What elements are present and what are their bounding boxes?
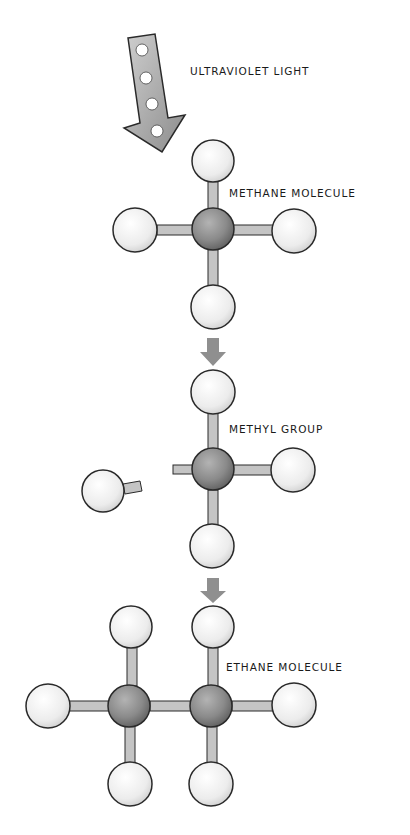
detached-hydrogen-atom bbox=[82, 470, 142, 512]
hydrogen-atom bbox=[271, 448, 315, 492]
down-arrow-icon bbox=[200, 578, 226, 603]
hydrogen-atom bbox=[113, 208, 157, 252]
methane-molecule bbox=[113, 140, 316, 329]
hydrogen-atom bbox=[26, 684, 70, 728]
ethane-molecule bbox=[26, 606, 316, 806]
carbon-atom bbox=[192, 448, 234, 490]
carbon-atom bbox=[190, 685, 232, 727]
ethane-molecule-label: ETHANE MOLECULE bbox=[226, 661, 343, 673]
hydrogen-atom bbox=[190, 524, 234, 568]
ultraviolet-arrow-icon bbox=[124, 34, 185, 152]
down-arrow-icon bbox=[200, 338, 226, 366]
hydrogen-atom bbox=[272, 209, 316, 253]
hydrogen-atom bbox=[192, 140, 234, 182]
hydrogen-atom bbox=[192, 606, 234, 648]
hydrogen-atom bbox=[189, 762, 233, 806]
reaction-diagram bbox=[0, 0, 410, 835]
carbon-atom bbox=[108, 685, 150, 727]
ultraviolet-light-label: ULTRAVIOLET LIGHT bbox=[190, 65, 309, 77]
carbon-atom bbox=[192, 208, 234, 250]
methyl-group-label: METHYL GROUP bbox=[229, 423, 323, 435]
hydrogen-atom bbox=[108, 762, 152, 806]
hydrogen-atom bbox=[191, 285, 235, 329]
hydrogen-atom bbox=[110, 606, 152, 648]
hydrogen-atom bbox=[191, 370, 235, 414]
methane-molecule-label: METHANE MOLECULE bbox=[229, 187, 356, 199]
methyl-group bbox=[82, 370, 315, 568]
hydrogen-atom bbox=[272, 683, 316, 727]
